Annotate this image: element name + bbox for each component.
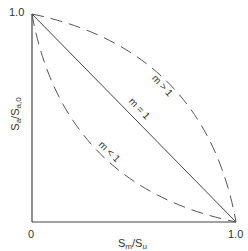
diagram-canvas: [0, 0, 248, 251]
x-label-sub1: m: [125, 242, 132, 251]
y-label-sub2: a,0: [14, 97, 23, 108]
y-tick-top: 1.0: [9, 6, 24, 18]
y-axis-label: Sa/Sa,0: [9, 84, 23, 144]
x-tick-end: 1.0: [228, 228, 243, 240]
x-label-sep: /S: [132, 237, 142, 249]
curve-m-equals-1: [32, 14, 236, 222]
y-label-main: S: [9, 123, 21, 130]
x-label-sub2: u: [142, 242, 146, 251]
x-axis-label: Sm/Su: [118, 237, 147, 251]
y-label-sub1: a: [14, 119, 23, 123]
y-label-sep: /S: [9, 108, 21, 118]
x-tick-origin: 0: [28, 228, 34, 240]
